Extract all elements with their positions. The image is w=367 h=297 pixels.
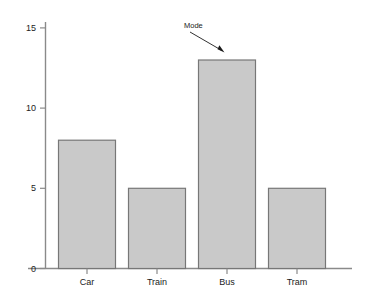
y-axis-ticks [40,28,46,269]
bar-tram[interactable] [269,188,326,268]
chart-canvas: 0 5 10 15 Car Train Bus Tram Mode [0,0,367,297]
bar-chart-figure: 0 5 10 15 Car Train Bus Tram Mode [0,0,367,297]
y-tick-label-0: 0 [31,264,36,274]
mode-annotation-arrow-line [190,32,221,50]
x-label-bus: Bus [219,277,235,287]
x-axis-ticks [87,269,297,275]
mode-annotation-arrowhead-icon [218,45,225,52]
bar-bus[interactable] [199,60,256,269]
x-label-car: Car [80,277,95,287]
x-label-train: Train [147,277,167,287]
bar-train[interactable] [129,188,186,268]
y-tick-label-15: 15 [26,23,36,33]
mode-annotation-label: Mode [184,21,203,30]
x-label-tram: Tram [287,277,308,287]
bar-car[interactable] [59,140,116,268]
y-tick-label-5: 5 [31,183,36,193]
y-tick-label-10: 10 [26,103,36,113]
